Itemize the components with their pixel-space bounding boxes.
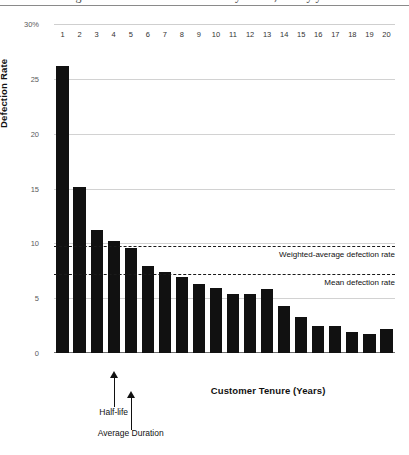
- reference-line-label-2: Mean defection rate: [324, 278, 395, 287]
- y-tick-label-15: 15: [0, 184, 39, 193]
- bar-year-13: [261, 289, 273, 353]
- bar-year-7: [159, 272, 171, 353]
- arrow-shaft: [114, 377, 115, 407]
- bar-year-19: [363, 334, 375, 353]
- x-tick-label-14: 14: [280, 30, 288, 39]
- y-tick-label-5: 5: [0, 294, 39, 303]
- x-tick-label-10: 10: [212, 30, 220, 39]
- bar-year-20: [380, 329, 392, 353]
- y-tick-label-10: 10: [0, 239, 39, 248]
- bar-year-16: [312, 326, 324, 353]
- bar-year-1: [56, 66, 68, 353]
- x-tick-label-1: 1: [60, 30, 64, 39]
- caption-divider-rule: [0, 5, 409, 6]
- x-tick-label-15: 15: [297, 30, 305, 39]
- y-tick-label-30: 30%: [0, 20, 39, 29]
- reference-line-2: [54, 274, 395, 275]
- x-tick-label-7: 7: [163, 30, 167, 39]
- bar-year-15: [295, 317, 307, 353]
- reference-line-1: [54, 246, 395, 247]
- bar-year-8: [176, 277, 188, 353]
- bar-year-17: [329, 326, 341, 353]
- bar-year-11: [227, 294, 239, 353]
- x-tick-label-12: 12: [246, 30, 254, 39]
- x-tick-label-13: 13: [263, 30, 271, 39]
- y-axis-title: Defection Rate: [0, 59, 9, 128]
- y-tick-label-20: 20: [0, 129, 39, 138]
- bar-year-5: [125, 248, 137, 353]
- x-tick-label-19: 19: [365, 30, 373, 39]
- plot-area: 051015202530% Weighted-average defection…: [54, 24, 395, 353]
- x-tick-label-2: 2: [77, 30, 81, 39]
- bars-group: [54, 24, 395, 353]
- bar-year-6: [142, 266, 154, 353]
- x-tick-label-17: 17: [331, 30, 339, 39]
- x-tick-label-18: 18: [348, 30, 356, 39]
- annotation-label: Half-life: [99, 407, 128, 417]
- y-tick-label-0: 0: [0, 349, 39, 358]
- x-tick-label-6: 6: [146, 30, 150, 39]
- x-tick-label-5: 5: [129, 30, 133, 39]
- x-tick-label-11: 11: [229, 30, 237, 39]
- figure-container: figure 1 customer defection rates by ten…: [0, 0, 409, 455]
- bar-year-10: [210, 288, 222, 353]
- x-tick-label-16: 16: [314, 30, 322, 39]
- reference-line-label-1: Weighted-average defection rate: [279, 250, 395, 259]
- x-tick-label-8: 8: [180, 30, 184, 39]
- bar-year-18: [346, 332, 358, 353]
- bar-year-14: [278, 306, 290, 353]
- bar-year-9: [193, 284, 205, 353]
- x-tick-label-20: 20: [382, 30, 390, 39]
- x-tick-label-3: 3: [95, 30, 99, 39]
- x-axis-title: Customer Tenure (Years): [211, 385, 326, 396]
- x-tick-label-9: 9: [197, 30, 201, 39]
- bar-year-3: [91, 230, 103, 353]
- y-tick-label-25: 25: [0, 74, 39, 83]
- arrow-shaft: [131, 397, 132, 430]
- x-tick-label-4: 4: [112, 30, 116, 39]
- caption-remnant-text: figure 1 customer defection rates by ten…: [0, 0, 409, 3]
- bar-year-2: [73, 187, 85, 353]
- annotation-label: Average Duration: [98, 428, 164, 438]
- bar-year-12: [244, 294, 256, 353]
- bar-year-4: [108, 241, 120, 353]
